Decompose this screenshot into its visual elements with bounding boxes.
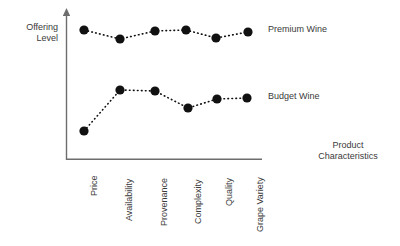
premium-wine-connector xyxy=(84,30,248,39)
premium-wine-point xyxy=(181,25,190,34)
series-label-budget-wine: Budget Wine xyxy=(268,91,320,102)
series-budget-wine xyxy=(79,85,251,135)
premium-wine-point xyxy=(79,25,88,34)
budget-wine-connector xyxy=(84,90,247,131)
x-tick-label-provenance: Provenance xyxy=(159,178,169,226)
budget-wine-point xyxy=(242,93,251,102)
series-label-premium-wine: Premium Wine xyxy=(268,24,327,35)
budget-wine-point xyxy=(212,94,221,103)
x-tick-label-availability: Availability xyxy=(124,179,134,221)
budget-wine-point xyxy=(183,103,192,112)
premium-wine-point xyxy=(211,33,220,42)
budget-wine-point xyxy=(150,86,159,95)
premium-wine-point xyxy=(150,26,159,35)
premium-wine-point xyxy=(115,34,124,43)
x-tick-label-quality: Quality xyxy=(224,178,234,206)
budget-wine-point xyxy=(79,126,88,135)
chart-canvas: OfferingLevel ProductCharacteristics xyxy=(0,0,400,246)
budget-wine-point xyxy=(115,85,124,94)
premium-wine-point xyxy=(243,27,252,36)
x-tick-label-price: Price xyxy=(89,175,99,196)
x-tick-label-complexity: Complexity xyxy=(193,179,203,224)
series-premium-wine xyxy=(79,25,252,43)
x-tick-label-grape-variety: Grape Variety xyxy=(255,177,265,232)
y-axis-arrowhead xyxy=(63,8,70,16)
